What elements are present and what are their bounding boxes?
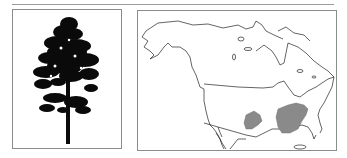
north-america-map <box>138 11 336 150</box>
pacific-coastline <box>142 31 204 89</box>
tree-silhouette-icon <box>13 10 121 148</box>
tree-panel <box>12 9 122 149</box>
arctic-coastline <box>146 21 283 39</box>
range-map-panel <box>137 10 337 151</box>
south-central-range-patch <box>244 111 262 129</box>
top-rule <box>12 4 334 5</box>
southeastern-range-area <box>276 103 308 133</box>
